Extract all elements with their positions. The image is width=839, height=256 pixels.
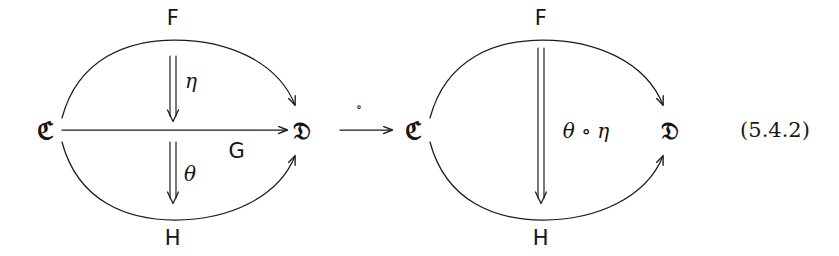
right-lower-arc-functor-H <box>430 142 663 220</box>
right-label-composed-transformation: θ ∘ η <box>563 121 610 141</box>
equation-number: (5.4.2) <box>740 120 810 141</box>
right-label-target-category: 𝔇 <box>661 119 679 143</box>
category-theory-pasting-diagram: F ℭ 𝔇 G H η θ ∘ F ℭ 𝔇 H θ ∘ η (5.4.2) <box>0 0 839 256</box>
composition-circle-symbol: ∘ <box>356 101 362 113</box>
left-label-theta: θ <box>184 164 196 184</box>
left-label-target-category: 𝔇 <box>293 119 311 143</box>
right-label-source-category: ℭ <box>405 119 422 143</box>
right-double-arrow-theta-circ-eta <box>536 48 547 204</box>
left-label-eta: η <box>185 71 197 91</box>
left-double-arrow-eta <box>168 56 179 122</box>
left-label-functor-G: G <box>229 141 246 162</box>
right-upper-arc-functor-F <box>430 40 663 118</box>
left-double-arrow-theta <box>168 142 179 204</box>
left-lower-arc-functor-H <box>62 142 295 220</box>
right-label-functor-F: F <box>535 8 548 29</box>
right-label-functor-H: H <box>533 228 549 249</box>
left-label-source-category: ℭ <box>37 119 54 143</box>
left-label-functor-H: H <box>165 228 181 249</box>
left-upper-arc-functor-F <box>62 40 295 118</box>
left-label-functor-F: F <box>167 8 180 29</box>
